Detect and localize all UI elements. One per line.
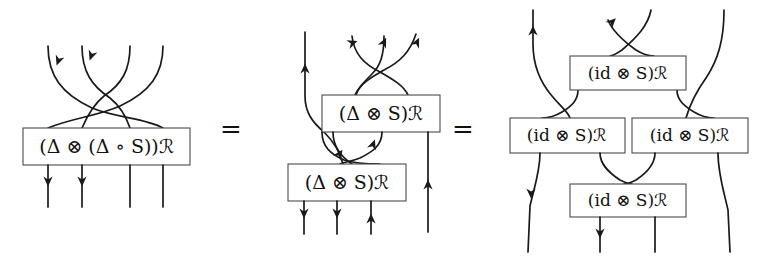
panel-1-bottom-wires [43,165,163,207]
panel-2-mid-wires [322,132,382,164]
wire-p3-far-right [686,10,724,118]
equals-sign-2: = [452,114,474,144]
wire-p3-far-left [533,10,570,118]
panel-2: (Δ ⊗ S)ℛ [288,32,440,234]
wire-p1-a [48,46,163,128]
panel-1: (Δ ⊗ (Δ ∘ S))ℛ [23,46,190,207]
wire-p3-mid-x-left [600,153,632,184]
p1-box-1-label: (Δ ⊗ (Δ ∘ S))ℛ [39,135,174,157]
panel-2-bottom-wires [299,201,375,234]
panel-1-top-arrows [52,49,97,67]
p2-box-top-label: (Δ ⊗ S)ℛ [339,102,424,124]
p1-box-1: (Δ ⊗ (Δ ∘ S))ℛ [23,128,190,165]
p3-box-top: (id ⊗ S)ℛ [570,56,686,90]
string-diagram-equation: (Δ ⊗ (Δ ∘ S))ℛ = [0,0,760,262]
panel-1-top-wires [48,46,163,128]
p3-box-mid-right-label: (id ⊗ S)ℛ [650,125,730,145]
arrow-down-p3-x [605,15,619,29]
arrow-down-p2-m2 [367,138,379,151]
wire-p3-x-right [608,20,654,56]
wire-p3-left-out [528,153,540,252]
wire-p3-mid-x-right [624,153,655,184]
p3-box-mid-left-label: (id ⊗ S)ℛ [527,125,607,145]
wire-p3-right-out [718,153,730,252]
arrow-up-p1-2 [85,49,97,62]
panel-3: (id ⊗ S)ℛ (id ⊗ S)ℛ (id ⊗ S)ℛ [510,10,748,252]
p2-box-bottom-label: (Δ ⊗ S)ℛ [305,171,390,193]
arrow-up-p1-1 [52,54,64,67]
p3-box-bottom: (id ⊗ S)ℛ [570,184,686,217]
p2-box-bottom: (Δ ⊗ S)ℛ [288,164,406,201]
p3-box-mid-left: (id ⊗ S)ℛ [510,118,625,153]
p3-box-mid-right: (id ⊗ S)ℛ [632,118,748,153]
p3-box-bottom-label: (id ⊗ S)ℛ [588,190,668,210]
p3-box-top-label: (id ⊗ S)ℛ [588,63,668,83]
wire-p2-m3 [322,132,380,164]
p2-box-top: (Δ ⊗ S)ℛ [322,95,440,132]
diagram-canvas: (Δ ⊗ (Δ ∘ S))ℛ = [0,0,760,262]
arrow-down-p3-left-out [526,189,535,199]
wire-p1-d [48,46,163,128]
equals-sign-1: = [220,114,242,144]
